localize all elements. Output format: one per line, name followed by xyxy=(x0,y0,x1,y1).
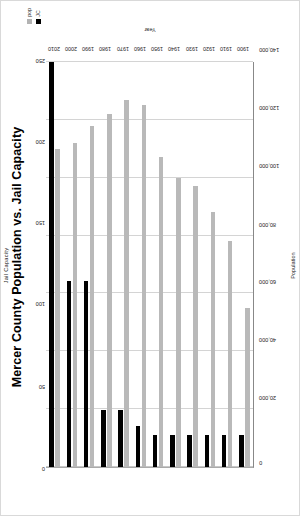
primary-axis-title: Population xyxy=(290,63,296,468)
secondary-axis-tick: 250 xyxy=(36,58,45,64)
primary-axis-tick: 120,000 xyxy=(259,105,279,111)
primary-axis-tick: 20,000 xyxy=(259,396,276,402)
secondary-axis-title: Jail Capacity xyxy=(3,63,9,468)
plot-area xyxy=(46,62,254,468)
bar-pop-1950 xyxy=(159,157,164,467)
bar-pop-1940 xyxy=(176,178,181,467)
secondary-axis-tick: 0 xyxy=(42,466,45,472)
bar-pop-1990 xyxy=(90,126,95,467)
bar-pop-1980 xyxy=(107,114,112,467)
bar-pop-2000 xyxy=(73,143,78,467)
legend-item-pop[interactable]: pop xyxy=(26,8,33,24)
category-axis-tick-labels: 2010200019901980197019601950194019301920… xyxy=(46,36,253,62)
chart-page: Mercer County Population vs. Jail Capaci… xyxy=(0,0,300,516)
bar-jc-1970 xyxy=(118,410,123,467)
bar-jc-1920 xyxy=(205,435,210,467)
bar-jc-2010 xyxy=(49,62,54,467)
primary-axis-tick-labels: 020,00040,00060,00080,000100,000120,0001… xyxy=(257,63,291,468)
bar-jc-1940 xyxy=(170,435,175,467)
primary-axis-tick: 140,000 xyxy=(259,47,279,53)
chart-legend: pop JC xyxy=(26,8,44,24)
primary-axis-tick: 100,000 xyxy=(259,163,279,169)
category-axis-title: Year xyxy=(46,23,253,37)
bar-jc-1900 xyxy=(239,435,244,467)
bar-pop-1900 xyxy=(245,308,250,467)
gridline xyxy=(46,119,253,120)
secondary-axis-tick: 150 xyxy=(36,220,45,226)
bar-jc-1950 xyxy=(153,435,158,467)
bar-jc-1910 xyxy=(222,435,227,467)
primary-axis-tick: 40,000 xyxy=(259,338,276,344)
black-swatch-icon xyxy=(36,19,41,24)
secondary-axis-tick: 100 xyxy=(36,301,45,307)
bar-pop-1960 xyxy=(142,105,147,467)
primary-axis-tick: 60,000 xyxy=(259,280,276,286)
gray-swatch-icon xyxy=(27,19,32,24)
bar-jc-1930 xyxy=(187,435,192,467)
category-tick-1900: 1900 xyxy=(230,46,256,52)
chart-frame: Mercer County Population vs. Jail Capaci… xyxy=(0,0,300,516)
bar-jc-2000 xyxy=(67,281,72,467)
primary-axis-tick: 0 xyxy=(259,460,262,466)
bar-jc-1960 xyxy=(136,427,141,468)
bar-pop-1920 xyxy=(211,212,216,467)
bar-jc-1990 xyxy=(84,281,89,467)
bar-pop-1910 xyxy=(228,241,233,467)
legend-label-jc: JC xyxy=(35,10,42,16)
legend-label-pop: pop xyxy=(26,8,33,17)
category-axis-title-text: Year xyxy=(144,27,155,33)
legend-item-jc[interactable]: JC xyxy=(35,8,42,24)
bar-pop-2010 xyxy=(55,149,60,467)
bar-pop-1970 xyxy=(124,100,129,467)
secondary-axis-tick: 200 xyxy=(36,139,45,145)
primary-axis-tick: 80,000 xyxy=(259,222,276,228)
secondary-axis-tick-labels: 050100150200250 xyxy=(13,63,45,468)
bar-jc-1980 xyxy=(101,410,106,467)
rotated-chart-container: Mercer County Population vs. Jail Capaci… xyxy=(0,0,300,516)
secondary-axis-tick: 50 xyxy=(39,384,45,390)
bar-pop-1930 xyxy=(193,186,198,467)
